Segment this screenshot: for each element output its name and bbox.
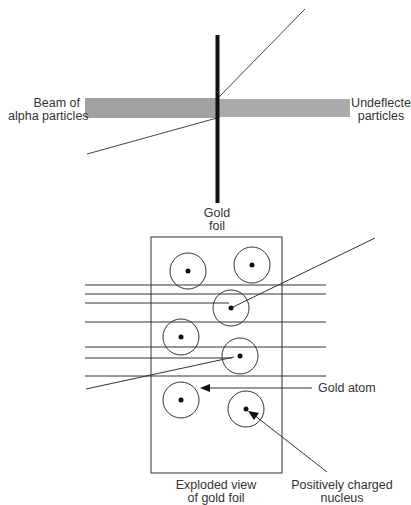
exploded-caption: Exploded view of gold foil (160, 479, 272, 505)
exploded-foil-rect (151, 237, 282, 473)
undeflected-label: Undeflecte particles (350, 97, 411, 123)
beam-label-line2: alpha particles (8, 110, 80, 123)
nucleus-label-line2: nucleus (282, 492, 402, 505)
nucleus-label: Positively charged nucleus (282, 479, 402, 505)
alpha-beam-left (85, 99, 217, 117)
exploded-deflected-back (86, 357, 234, 389)
gold-atom-label: Gold atom (318, 382, 376, 395)
deflected-path-back (87, 118, 217, 154)
nucleus-arrow (248, 411, 327, 472)
foil-label: Gold foil (192, 207, 242, 233)
caption-line2: of gold foil (160, 492, 272, 505)
gold-foil-bar (216, 35, 220, 203)
gold-atom-arrow (200, 384, 312, 392)
exploded-deflected-up (231, 238, 375, 308)
deflected-path-up (218, 9, 305, 98)
undeflected-label-line2: particles (350, 110, 411, 123)
foil-label-line2: foil (192, 220, 242, 233)
particle-lines (85, 285, 326, 376)
beam-label: Beam of alpha particles (8, 97, 80, 123)
alpha-beam-right (217, 100, 350, 116)
